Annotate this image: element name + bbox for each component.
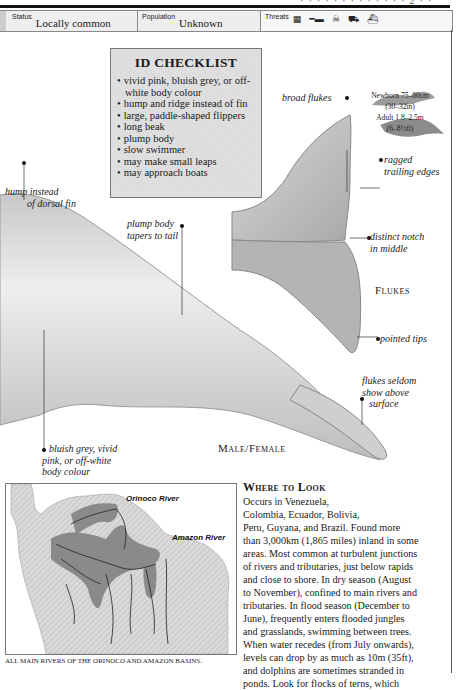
- leader-dot: [367, 236, 371, 240]
- population-value: Unknown: [179, 17, 222, 29]
- gun-icon: ━▬: [309, 15, 323, 24]
- id-checklist: ID CHECKLIST vivid pink, bluish grey, or…: [110, 48, 262, 198]
- range-map: Orinoco River Amazon River: [5, 483, 237, 655]
- status-cell: Status Locally common: [0, 11, 138, 31]
- body-line: to November), confined to main rivers an…: [243, 587, 417, 598]
- annotation-seldom-line2: show above: [362, 387, 416, 399]
- annotation-flukes-seldom: flukes seldom show above surface: [362, 375, 416, 410]
- body-line: June), frequently enters flooded jungles: [243, 613, 405, 624]
- annotation-notch: distinct notch in middle: [370, 231, 424, 254]
- leader-dot: [360, 397, 364, 401]
- body-line: of rivers and tributaries, just below ra…: [243, 561, 413, 572]
- threats-label: Threats: [265, 13, 289, 20]
- checklist-item: may make small leaps: [117, 156, 255, 168]
- leader-dot: [345, 96, 349, 100]
- checklist-item: large, paddle-shaped flippers: [117, 110, 255, 122]
- checklist-item: slow swimmer: [117, 144, 255, 156]
- annotation-colour-line1: bluish grey, vivid: [42, 443, 117, 455]
- status-bar: Status Locally common Population Unknown…: [0, 10, 453, 32]
- annotation-plump-line1: plump body: [127, 218, 178, 230]
- poison-icon: ☠: [332, 15, 340, 24]
- annotation-colour-line2: pink, or off-white: [42, 455, 117, 467]
- checklist-item: plump body: [117, 133, 255, 145]
- annotation-hump-line2: of dorsal fin: [5, 198, 76, 210]
- checklist-title: ID CHECKLIST: [117, 55, 255, 71]
- leader-dot: [379, 158, 383, 162]
- adult-size-imperial: (6–8½ft): [355, 123, 445, 134]
- newborn-size: Newborn 75–80cm: [355, 90, 445, 101]
- body-line: levels can drop by as much as 10m (35ft)…: [243, 652, 414, 663]
- caption-flukes: Flukes: [375, 284, 410, 296]
- annotation-ragged-line1: ragged: [384, 154, 439, 166]
- threat-icons: ▦ ━▬ ☠ ⛟ ⛴: [293, 15, 378, 24]
- body-line: areas. Most common at turbulent junction…: [243, 548, 417, 559]
- leader-dot: [180, 224, 184, 228]
- newborn-size-imperial: (30–32in): [355, 101, 445, 112]
- map-caption: ALL MAIN RIVERS OF THE ORINOCO AND AMAZO…: [5, 657, 202, 665]
- checklist-item: vivid pink, bluish grey, or off-white bo…: [117, 75, 255, 98]
- where-to-look: Where to Look Occurs in Venezuela, Colom…: [243, 480, 453, 690]
- checklist-item: may approach boats: [117, 167, 255, 179]
- population-label: Population: [142, 13, 175, 20]
- annotation-notch-line2: in middle: [370, 243, 424, 255]
- annotation-colour-line3: body colour: [42, 466, 117, 478]
- annotation-ragged-line2: trailing edges: [384, 166, 439, 178]
- body-line: and grasslands, swimming between trees.: [243, 626, 412, 637]
- annotation-hump: hump instead of dorsal fin: [5, 186, 76, 209]
- leader-dot: [22, 161, 26, 165]
- annotation-ragged: ragged trailing edges: [384, 154, 439, 177]
- leader-dot: [376, 337, 380, 341]
- annotation-hump-line1: hump instead: [5, 186, 76, 198]
- checklist-items: vivid pink, bluish grey, or off-white bo…: [117, 75, 255, 179]
- where-to-look-heading: Where to Look: [243, 480, 453, 495]
- body-line: Occurs in Venezuela,: [243, 496, 329, 507]
- annotation-body-colour: bluish grey, vivid pink, or off-white bo…: [42, 443, 117, 478]
- annotation-pointed-tips: pointed tips: [380, 333, 427, 345]
- threats-cell: Threats ▦ ━▬ ☠ ⛟ ⛴: [261, 11, 452, 31]
- top-rule: [0, 5, 450, 8]
- boat-icon: ⛟: [348, 15, 359, 24]
- size-info: Newborn 75–80cm (30–32in) Adult 1.8–2.5m…: [355, 90, 445, 134]
- body-line: tributaries. In flood season (December t…: [243, 600, 410, 611]
- checklist-item: hump and ridge instead of fin: [117, 98, 255, 110]
- body-line: When water recedes (from July onwards),: [243, 639, 414, 650]
- south-america-map: Orinoco River Amazon River: [6, 484, 236, 654]
- status-label: Status: [12, 13, 32, 20]
- annotation-seldom-line1: flukes seldom: [362, 375, 416, 387]
- adult-size: Adult 1.8–2.5m: [355, 112, 445, 123]
- body-line: Colombia, Ecuador, Bolivia,: [243, 509, 359, 520]
- annotation-plump-body: plump body tapers to tail: [127, 218, 178, 241]
- body-line: ponds. Look for flocks of terns, which: [243, 678, 399, 689]
- checklist-item: long beak: [117, 121, 255, 133]
- where-to-look-body: Occurs in Venezuela, Colombia, Ecuador, …: [243, 495, 453, 690]
- leader-dot: [42, 448, 46, 452]
- population-cell: Population Unknown: [138, 11, 261, 31]
- amazon-label: Amazon River: [171, 533, 226, 542]
- annotation-notch-line1: distinct notch: [370, 231, 424, 243]
- pollution-icon: ▦: [293, 15, 302, 24]
- body-line: than 3,000km (1,865 miles) inland in som…: [243, 535, 418, 546]
- body-line: Peru, Guyana, and Brazil. Found more: [243, 522, 400, 533]
- orinoco-label: Orinoco River: [126, 494, 180, 503]
- status-value: Locally common: [36, 17, 111, 29]
- body-line: and close to shore. In dry season (Augus…: [243, 574, 411, 585]
- body-line: and dolphins are sometimes stranded in: [243, 665, 404, 676]
- annotation-broad-flukes: broad flukes: [282, 92, 331, 104]
- habitat-loss-icon: ⛴: [367, 15, 378, 24]
- annotation-seldom-line3: surface: [362, 398, 416, 410]
- annotation-plump-line2: tapers to tail: [127, 230, 178, 242]
- caption-male-female: Male/Female: [218, 442, 286, 454]
